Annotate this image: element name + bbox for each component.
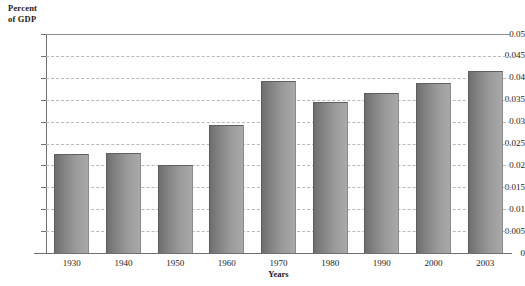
x-axis-tick-label: 1960 bbox=[201, 258, 253, 268]
bar-1980 bbox=[313, 102, 348, 253]
bar-1950 bbox=[158, 165, 193, 253]
y-axis-tick-mark bbox=[41, 253, 46, 254]
x-axis-line bbox=[34, 253, 512, 254]
bar-chart-figure: Percent of GDP 00.0050.010.0150.020.0250… bbox=[0, 0, 525, 286]
x-axis-tick-label: 1940 bbox=[98, 258, 150, 268]
bar-1930 bbox=[54, 154, 89, 253]
bar-2003 bbox=[468, 71, 503, 253]
x-axis-tick-label: 1930 bbox=[46, 258, 98, 268]
x-axis-tick-label: 1970 bbox=[253, 258, 305, 268]
bar-1990 bbox=[364, 93, 399, 253]
x-axis-tick-label: 1980 bbox=[304, 258, 356, 268]
bar-1940 bbox=[106, 153, 141, 253]
x-axis-title: Years bbox=[249, 269, 309, 279]
plot-top-border bbox=[46, 34, 511, 35]
x-axis-tick-label: 1950 bbox=[149, 258, 201, 268]
y-axis-title: Percent of GDP bbox=[8, 3, 37, 25]
bar-1970 bbox=[261, 81, 296, 253]
bar-2000 bbox=[416, 83, 451, 253]
gridline bbox=[46, 78, 511, 79]
x-axis-tick-label: 2003 bbox=[459, 258, 511, 268]
bar-1960 bbox=[209, 125, 244, 253]
gridline bbox=[46, 56, 511, 57]
plot-area bbox=[46, 34, 511, 253]
x-axis-tick-label: 2000 bbox=[408, 258, 460, 268]
x-axis-tick-label: 1990 bbox=[356, 258, 408, 268]
